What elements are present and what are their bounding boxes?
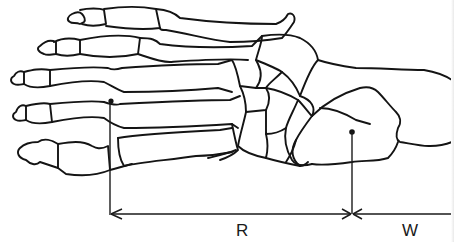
toe-4 xyxy=(13,96,240,128)
tarsal-bones xyxy=(208,35,452,166)
measurement-annotations xyxy=(108,98,454,219)
metatarsal-head-point xyxy=(108,98,113,103)
toe-3 xyxy=(11,60,232,92)
toe-2 xyxy=(38,36,262,62)
foot-skeleton-diagram xyxy=(0,0,454,242)
segment-label-w: W xyxy=(402,222,418,239)
segment-label-r: R xyxy=(236,222,248,239)
toe-5 xyxy=(18,128,232,175)
